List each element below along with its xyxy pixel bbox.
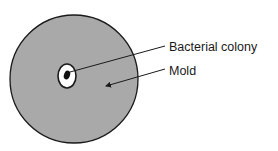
mold-label: Mold xyxy=(169,64,196,78)
bacterial-colony-label: Bacterial colony xyxy=(169,40,258,54)
petri-dish-diagram: Bacterial colony Mold xyxy=(0,0,278,151)
